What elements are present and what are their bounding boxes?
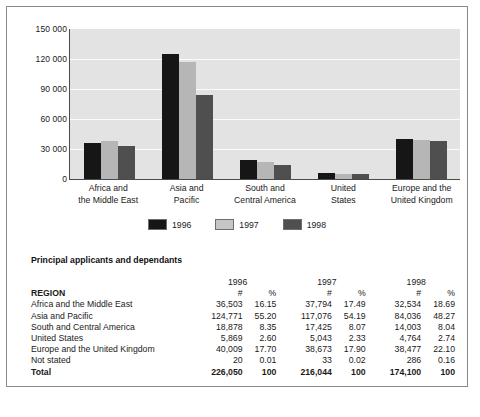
table-cell-region: Asia and Pacific: [31, 310, 199, 321]
table-cell-value: 0.01: [243, 355, 277, 366]
table-year-header-row: 1996 1997 1998: [31, 276, 455, 288]
chart-legend: 199619971998: [7, 219, 467, 230]
table-cell-value: 226,050: [199, 366, 243, 378]
x-axis-category-line: Pacific: [148, 195, 226, 207]
x-axis-category-line: Central America: [226, 195, 304, 207]
table-cell-value: 8.04: [421, 321, 455, 332]
table-cell-value: 17.90: [332, 344, 366, 355]
bar-1997: [257, 162, 274, 179]
table-cell-value: 84,036: [377, 310, 421, 321]
bar-group: [162, 29, 213, 179]
table-row: Asia and Pacific124,77155.20117,07654.19…: [31, 310, 455, 321]
figure-frame: 150 000120 00090 00060 00030 0000 Africa…: [6, 6, 468, 387]
table-cell-value: 20: [199, 355, 243, 366]
table-cell-spacer: [366, 366, 378, 378]
year-gap-2: [366, 276, 378, 288]
bar-1997: [179, 62, 196, 179]
y-axis-tick-label: 60 000: [40, 114, 67, 124]
x-axis-category-line: Africa and: [69, 183, 147, 195]
data-table-block: Principal applicants and dependants 1996…: [31, 255, 455, 378]
year-header-1996: 1996: [199, 276, 276, 288]
sub-gap-1: [276, 288, 288, 299]
x-axis-category-label: South andCentral America: [226, 183, 304, 206]
column-header-1997-percent: %: [332, 288, 366, 299]
table-cell-value: 100: [243, 366, 277, 378]
table-cell-region: United States: [31, 332, 199, 343]
table-cell-value: 33: [288, 355, 332, 366]
legend-item-1996: 1996: [148, 219, 191, 230]
plot-area: [69, 29, 460, 180]
table-cell-value: 2.60: [243, 332, 277, 343]
year-header-spacer: [31, 276, 199, 288]
table-cell-value: 4,764: [377, 332, 421, 343]
bar-chart: 150 000120 00090 00060 00030 0000 Africa…: [7, 7, 467, 215]
x-axis-category-line: Asia and: [148, 183, 226, 195]
x-axis-category-label: Europe and theUnited Kingdom: [383, 183, 461, 206]
table-total-row: Total226,050100216,044100174,100100: [31, 366, 455, 378]
bar-1997: [101, 141, 118, 179]
table-row: United States5,8692.605,0432.334,7642.74: [31, 332, 455, 343]
year-gap-1: [276, 276, 288, 288]
table-cell-spacer: [276, 344, 288, 355]
table-cell-value: 2.74: [421, 332, 455, 343]
bar-group: [396, 29, 447, 179]
bar-1998: [274, 165, 291, 179]
x-axis-category-line: Europe and the: [383, 183, 461, 195]
table-cell-spacer: [366, 332, 378, 343]
year-header-1997: 1997: [288, 276, 365, 288]
y-axis-tick-label: 0: [62, 174, 67, 184]
x-axis-category-label: UnitedStates: [304, 183, 382, 206]
table-cell-value: 117,076: [288, 310, 332, 321]
bar-1997: [413, 140, 430, 179]
table-cell-value: 100: [332, 366, 366, 378]
x-axis-category-line: United Kingdom: [383, 195, 461, 207]
table-cell-value: 8.35: [243, 321, 277, 332]
table-cell-value: 174,100: [377, 366, 421, 378]
table-cell-region: South and Central America: [31, 321, 199, 332]
x-axis: Africa andthe Middle EastAsia andPacific…: [69, 183, 461, 206]
table-cell-value: 38,477: [377, 344, 421, 355]
table-cell-value: 32,534: [377, 299, 421, 310]
sub-gap-2: [366, 288, 378, 299]
table-cell-value: 216,044: [288, 366, 332, 378]
table-cell-value: 17.49: [332, 299, 366, 310]
year-header-1998: 1998: [377, 276, 455, 288]
bar-group: [240, 29, 291, 179]
table-cell-spacer: [276, 299, 288, 310]
y-axis-tick-label: 120 000: [36, 54, 67, 64]
x-axis-category-label: Asia andPacific: [148, 183, 226, 206]
table-body: Africa and the Middle East36,50316.1537,…: [31, 299, 455, 378]
x-axis-category-line: States: [304, 195, 382, 207]
legend-label: 1997: [239, 220, 258, 230]
column-header-1996-percent: %: [243, 288, 277, 299]
y-axis: 150 000120 00090 00060 00030 0000: [13, 29, 67, 179]
x-axis-category-line: the Middle East: [69, 195, 147, 207]
table-cell-spacer: [276, 310, 288, 321]
bar-1996: [240, 160, 257, 179]
y-axis-tick-label: 30 000: [40, 144, 67, 154]
table-cell-value: 286: [377, 355, 421, 366]
table-row: South and Central America18,8788.3517,42…: [31, 321, 455, 332]
column-header-1998-percent: %: [421, 288, 455, 299]
table-cell-value: 37,794: [288, 299, 332, 310]
table-cell-spacer: [276, 366, 288, 378]
legend-label: 1998: [307, 220, 326, 230]
table-cell-spacer: [366, 299, 378, 310]
table-cell-spacer: [366, 321, 378, 332]
table-cell-value: 8.07: [332, 321, 366, 332]
table-cell-value: 18.69: [421, 299, 455, 310]
table-cell-value: 0.16: [421, 355, 455, 366]
table-cell-value: 40,009: [199, 344, 243, 355]
legend-swatch-icon: [215, 219, 234, 230]
x-axis-category-label: Africa andthe Middle East: [69, 183, 147, 206]
legend-swatch-icon: [283, 219, 302, 230]
table-cell-value: 48.27: [421, 310, 455, 321]
table-cell-value: 38,673: [288, 344, 332, 355]
table-cell-value: 22.10: [421, 344, 455, 355]
table-cell-spacer: [366, 344, 378, 355]
column-header-1997-count: #: [288, 288, 332, 299]
table-cell-spacer: [366, 310, 378, 321]
bar-1996: [84, 143, 101, 180]
table-cell-spacer: [276, 321, 288, 332]
column-header-1998-count: #: [377, 288, 421, 299]
